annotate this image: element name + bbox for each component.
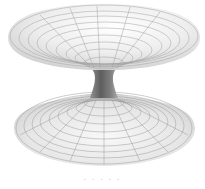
wormhole-throat (88, 66, 120, 98)
wormhole-illustration (0, 0, 205, 189)
top-funnel (8, 4, 200, 70)
wormhole-figure (0, 0, 205, 189)
bottom-funnel (14, 92, 195, 166)
image-caption: · · · · · (0, 176, 205, 183)
